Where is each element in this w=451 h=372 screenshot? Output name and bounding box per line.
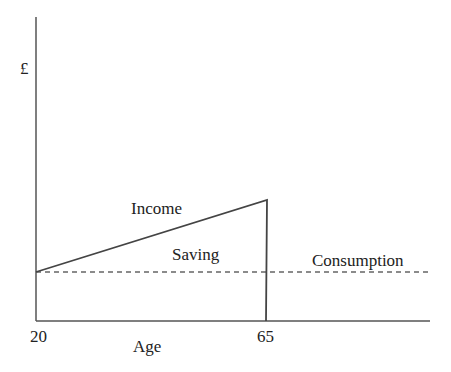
consumption-label: Consumption <box>312 252 404 269</box>
x-tick-20: 20 <box>30 328 47 345</box>
income-label: Income <box>131 200 182 217</box>
x-tick-65: 65 <box>257 328 274 345</box>
y-axis-label: £ <box>20 60 29 77</box>
income-line <box>36 200 267 321</box>
life-cycle-diagram <box>0 0 451 372</box>
saving-label: Saving <box>172 246 219 263</box>
x-axis-label: Age <box>133 338 161 355</box>
